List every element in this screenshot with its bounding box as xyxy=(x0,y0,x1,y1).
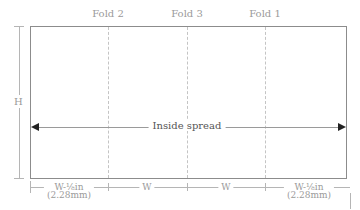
dimension-label-w2: W xyxy=(218,182,233,192)
inside-spread-panel xyxy=(30,26,347,179)
width-tick-1 xyxy=(108,183,109,191)
fold-3-label: Fold 3 xyxy=(171,8,203,19)
spread-label: Inside spread xyxy=(149,120,226,131)
width-tick-0 xyxy=(30,181,31,193)
dimension-label-left: W-⅛in (2.28mm) xyxy=(44,183,94,199)
width-tick-end xyxy=(350,193,351,209)
fold-2-label: Fold 2 xyxy=(92,8,124,19)
dimension-label-right: W-⅛in (2.28mm) xyxy=(284,183,334,199)
arrow-left-icon xyxy=(31,123,39,131)
dimension-left-line2: (2.28mm) xyxy=(47,191,91,199)
dimension-label-w1: W xyxy=(139,182,154,192)
height-label: H xyxy=(14,95,23,108)
arrow-right-icon xyxy=(338,123,346,131)
fold-2-line xyxy=(108,27,109,178)
width-tick-2 xyxy=(187,183,188,191)
height-top-tick xyxy=(14,26,24,27)
fold-3-line xyxy=(187,27,188,178)
fold-1-line xyxy=(265,27,266,178)
height-bottom-tick xyxy=(14,178,24,179)
fold-1-label: Fold 1 xyxy=(249,8,281,19)
width-tick-3 xyxy=(265,183,266,191)
dimension-right-line2: (2.28mm) xyxy=(287,191,331,199)
